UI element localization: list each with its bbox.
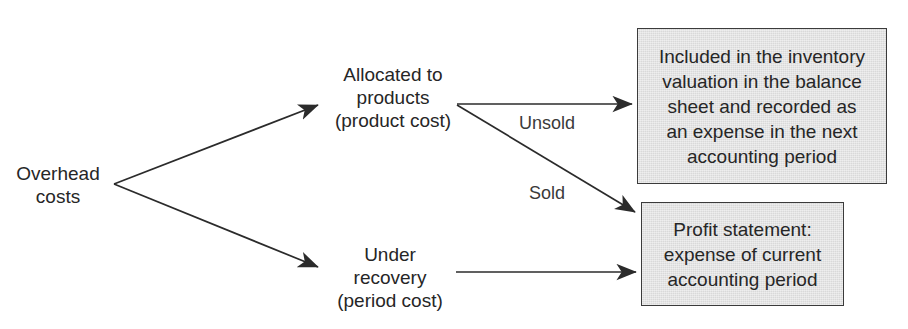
profit-statement-box-text: Profit statement: expense of current acc…: [656, 217, 829, 292]
node-allocated-to-products: Allocated to products (product cost): [325, 63, 461, 132]
inventory-valuation-box: Included in the inventory valuation in t…: [637, 28, 887, 184]
node-overhead-costs: Overhead costs: [6, 162, 110, 208]
node-under-recovery: Under recovery (period cost): [328, 243, 452, 312]
edge-overhead-to-under-recovery: [114, 184, 318, 267]
edge-label-unsold: Unsold: [519, 113, 575, 134]
inventory-valuation-box-text: Included in the inventory valuation in t…: [651, 44, 873, 169]
edge-label-sold: Sold: [529, 183, 565, 204]
profit-statement-box: Profit statement: expense of current acc…: [641, 202, 844, 306]
edge-overhead-to-allocated: [114, 105, 318, 184]
